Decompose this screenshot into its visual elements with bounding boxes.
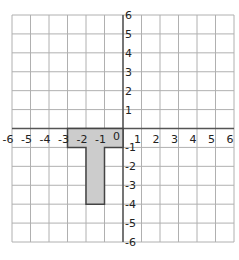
y-tick-label: 2 <box>125 85 132 98</box>
y-tick-label: -3 <box>125 179 136 192</box>
x-tick-label: 6 <box>227 133 234 146</box>
x-tick-label: -5 <box>21 133 32 146</box>
y-tick-label: -5 <box>125 217 136 230</box>
x-tick-label: 4 <box>190 133 197 146</box>
x-tick-label: 5 <box>208 133 215 146</box>
origin-label: 0 <box>113 130 120 143</box>
y-tick-label: 1 <box>125 104 132 117</box>
y-tick-label: -2 <box>125 160 136 173</box>
y-tick-label: -6 <box>125 236 136 249</box>
y-tick-label: 3 <box>125 66 132 79</box>
y-tick-label: 4 <box>125 47 132 60</box>
x-tick-label: 2 <box>153 133 160 146</box>
y-tick-label: 6 <box>125 9 132 22</box>
x-tick-label: -1 <box>95 133 106 146</box>
y-tick-label: -4 <box>125 198 136 211</box>
x-tick-label: -2 <box>77 133 88 146</box>
y-tick-label: -1 <box>125 141 136 154</box>
y-tick-label: 5 <box>125 28 132 41</box>
coordinate-grid: -6-5-4-3-2-1123456654321-1-2-3-4-5-60 <box>0 0 239 260</box>
x-tick-label: -6 <box>3 133 14 146</box>
x-tick-label: 3 <box>171 133 178 146</box>
x-tick-label: -3 <box>58 133 69 146</box>
x-tick-label: -4 <box>40 133 51 146</box>
